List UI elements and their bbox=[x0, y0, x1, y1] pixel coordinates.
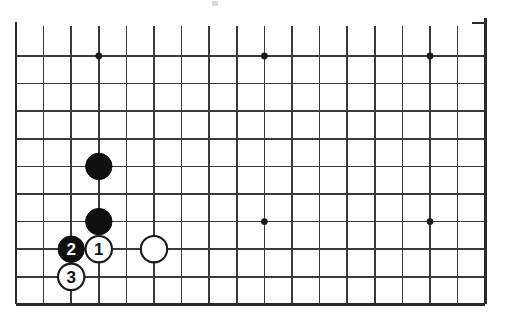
board-canvas: 213 bbox=[0, 0, 516, 331]
black-stone-upper bbox=[86, 153, 112, 179]
white-stone-plain bbox=[141, 236, 167, 262]
white-stone-plain-disc bbox=[141, 236, 167, 262]
white-stone-move-3: 3 bbox=[58, 264, 84, 290]
black-stone-upper-disc bbox=[86, 153, 112, 179]
black-stone-move-2: 2 bbox=[58, 236, 84, 262]
star-point-top-right bbox=[427, 53, 434, 60]
star-point-mid-middle bbox=[261, 218, 268, 225]
white-stone-move-1: 1 bbox=[86, 236, 112, 262]
scan-speck-icon bbox=[212, 1, 218, 6]
grid-horizontal-lines bbox=[16, 56, 485, 304]
white-stone-move-1-number: 1 bbox=[94, 240, 103, 259]
star-point-top-middle bbox=[261, 53, 268, 60]
star-point-top-left bbox=[95, 53, 102, 60]
scan-speck bbox=[212, 1, 218, 6]
black-stone-lower-disc bbox=[86, 208, 112, 234]
white-stone-move-3-number: 3 bbox=[66, 268, 75, 287]
star-point-mid-right bbox=[427, 218, 434, 225]
black-stone-move-2-number: 2 bbox=[66, 240, 75, 259]
go-board-diagram: 213 bbox=[0, 0, 516, 331]
black-stone-lower bbox=[86, 208, 112, 234]
